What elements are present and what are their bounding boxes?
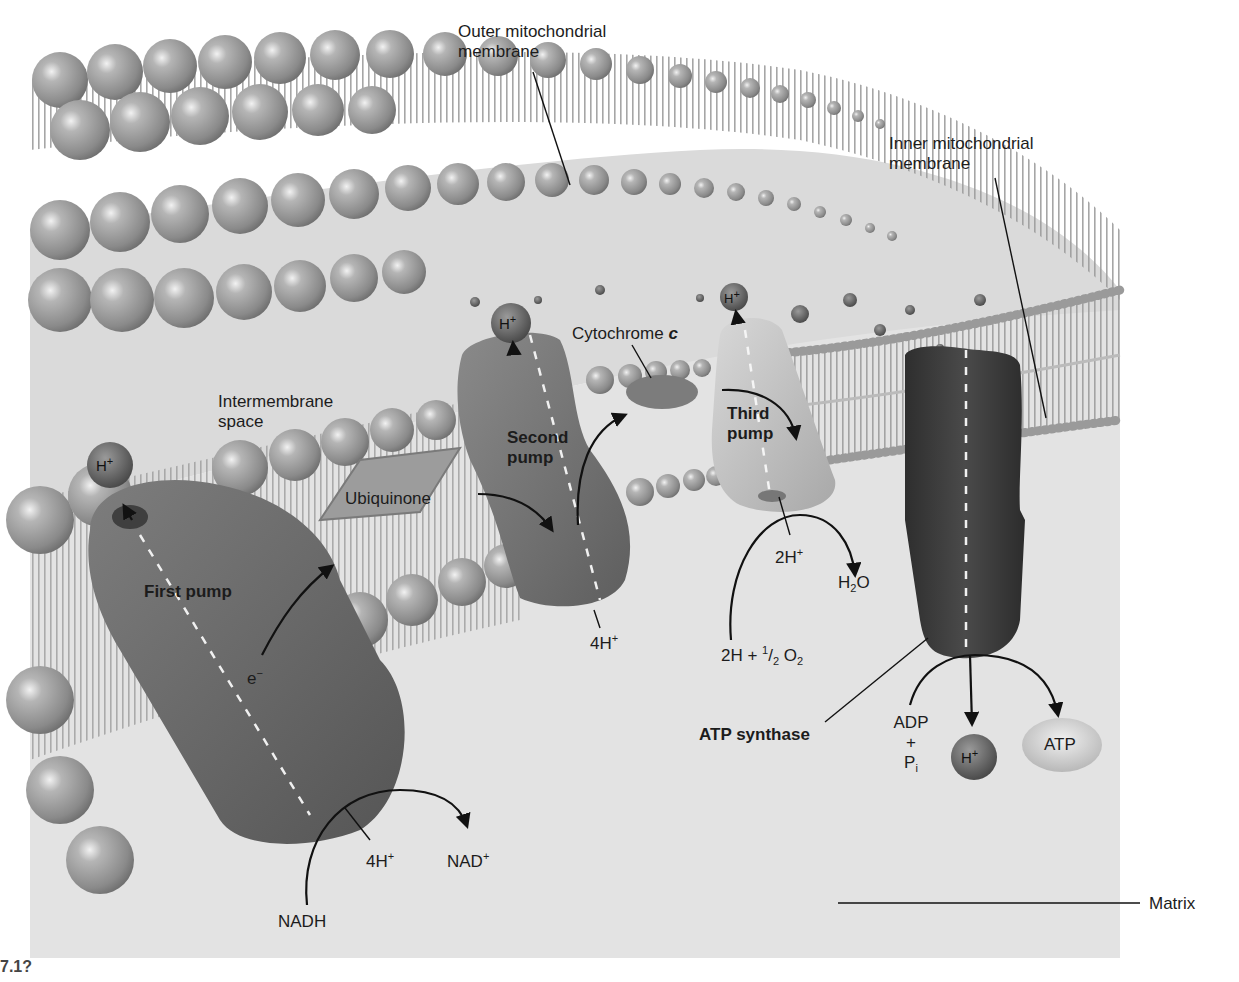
label-water: H2O [838, 573, 870, 598]
label-second-pump: Second pump [507, 428, 568, 468]
label-nadh: NADH [278, 912, 326, 932]
label-matrix: Matrix [1149, 894, 1195, 914]
label-intermembrane-space: Intermembrane space [218, 392, 333, 432]
electron-transport-diagram: Outer mitochondrial membrane Inner mitoc… [0, 0, 1239, 982]
label-third-pump-2h: 2H+ [775, 542, 803, 568]
label-oxygen-reactant: 2H + 1/2 O2 [721, 640, 803, 671]
diagram-canvas [0, 0, 1239, 982]
h-ion-matrix-label: H+ [961, 747, 978, 766]
label-third-pump: Third pump [727, 404, 773, 444]
label-first-pump: First pump [144, 582, 232, 602]
label-ubiquinone: Ubiquinone [345, 489, 431, 509]
label-nad-plus: NAD+ [447, 846, 489, 872]
label-electron: e− [247, 663, 263, 689]
cytochrome-c-shape [626, 375, 698, 409]
label-atp-synthase: ATP synthase [699, 725, 810, 745]
h-ion-second-label: H+ [499, 313, 516, 332]
label-inner-membrane: Inner mitochondrial membrane [889, 134, 1034, 174]
label-cytochrome-c: Cytochrome c [572, 324, 678, 344]
label-atp: ATP [1044, 735, 1076, 755]
h-ion-left-label: H+ [96, 455, 113, 474]
label-adp: ADP + Pi [891, 713, 931, 778]
label-first-pump-4h: 4H+ [366, 846, 394, 872]
label-outer-membrane: Outer mitochondrial membrane [458, 22, 606, 62]
label-second-pump-4h: 4H+ [590, 628, 618, 654]
h-ion-third-label: H+ [724, 288, 740, 306]
figure-number: 7.1? [0, 958, 32, 976]
